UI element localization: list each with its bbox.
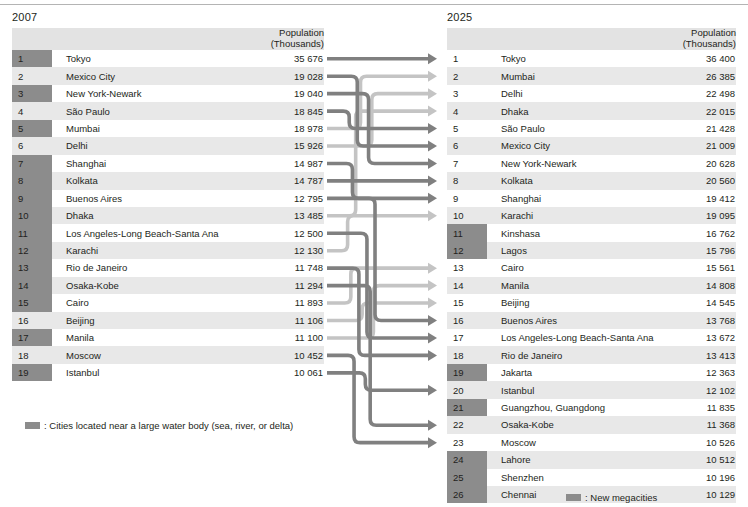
population-cell: 13 672 [706,332,736,343]
population-cell: 13 768 [706,315,736,326]
table-row[interactable]: 23Moscow10 526 [447,434,736,451]
flow-line-osaka-kobe [327,286,428,426]
population-cell: 15 926 [294,140,324,151]
table-row[interactable]: 18Moscow10 452 [12,346,324,363]
table-row[interactable]: 8Kolkata20 560 [447,172,736,189]
flow-line-delhi [327,94,428,146]
flow-arrowhead-icon [428,193,437,204]
flow-arrowhead-icon [428,350,437,361]
table-row[interactable]: 13Cairo15 561 [447,259,736,276]
city-name-cell: Mumbai [52,123,294,134]
flow-line-istanbul [327,373,428,390]
population-cell: 10 061 [294,367,324,378]
city-name-cell: Buenos Aires [52,193,294,204]
rank-cell: 12 [12,242,52,259]
city-name-cell: Manila [487,280,706,291]
population-cell: 12 795 [294,193,324,204]
rank-cell: 10 [12,207,52,224]
table-row[interactable]: 25Shenzhen10 196 [447,469,736,486]
city-name-cell: Delhi [487,88,706,99]
rank-cell: 11 [12,224,52,241]
rank-cell: 5 [447,120,487,137]
top-divider [0,4,748,5]
table-row[interactable]: 13Rio de Janeiro11 748 [12,259,324,276]
city-name-cell: Shanghai [487,193,706,204]
city-name-cell: Rio de Janeiro [487,350,706,361]
table-row[interactable]: 9Shanghai19 412 [447,190,736,207]
table-row[interactable]: 14Manila14 808 [447,277,736,294]
table-row[interactable]: 16Buenos Aires13 768 [447,312,736,329]
population-cell: 12 102 [706,385,736,396]
rank-cell: 2 [447,67,487,84]
table-row[interactable]: 1Tokyo35 676 [12,50,324,67]
table-row[interactable]: 12Lagos15 796 [447,242,736,259]
flow-line-rio-de-janeiro [327,268,428,355]
table-row[interactable]: 1Tokyo36 400 [447,50,736,67]
table-row[interactable]: 18Rio de Janeiro13 413 [447,346,736,363]
rank-cell: 13 [12,259,52,276]
table-row[interactable]: 11Los Angeles-Long Beach-Santa Ana12 500 [12,224,324,241]
rank-cell: 21 [447,399,487,416]
megacity-rank-diagram: 2007 2025 Population (Thousands) 1Tokyo3… [0,0,748,507]
table-row[interactable]: 15Cairo11 893 [12,294,324,311]
table-row[interactable]: 8Kolkata14 787 [12,172,324,189]
table-row[interactable]: 17Manila11 100 [12,329,324,346]
table-row[interactable]: 22Osaka-Kobe11 368 [447,416,736,433]
city-name-cell: Karachi [52,245,294,256]
city-name-cell: Moscow [52,350,294,361]
table-row[interactable]: 24Lahore10 512 [447,451,736,468]
rank-cell: 3 [12,85,52,102]
table-row[interactable]: 4Dhaka22 015 [447,102,736,119]
city-name-cell: Rio de Janeiro [52,262,295,273]
table-row[interactable]: 21Guangzhou, Guangdong11 835 [447,399,736,416]
table-row[interactable]: 7Shanghai14 987 [12,155,324,172]
legend-swatch-icon [566,494,581,501]
flow-arrowhead-icon [428,315,437,326]
table-row[interactable]: 14Osaka-Kobe11 294 [12,277,324,294]
population-cell: 19 028 [294,71,324,82]
city-name-cell: Los Angeles-Long Beach-Santa Ana [487,332,706,343]
table-row[interactable]: 19Jakarta12 363 [447,364,736,381]
city-name-cell: Beijing [487,297,706,308]
population-cell: 11 835 [707,402,736,413]
table-2025-header: Population (Thousands) [447,28,736,50]
population-cell: 13 485 [294,210,324,221]
rank-cell: 14 [12,277,52,294]
table-row[interactable]: 10Dhaka13 485 [12,207,324,224]
table-row[interactable]: 20Istanbul12 102 [447,381,736,398]
rank-cell: 18 [12,346,52,363]
city-name-cell: Dhaka [487,106,706,117]
table-row[interactable]: 12Karachi12 130 [12,242,324,259]
table-row[interactable]: 6Delhi15 926 [12,137,324,154]
table-row[interactable]: 15Beijing14 545 [447,294,736,311]
population-cell: 10 129 [706,489,736,500]
table-row[interactable]: 5São Paulo21 428 [447,120,736,137]
table-row[interactable]: 5Mumbai18 978 [12,120,324,137]
rank-cell: 4 [447,102,487,119]
table-row[interactable]: 6Mexico City21 009 [447,137,736,154]
rank-cell: 1 [12,50,52,67]
city-name-cell: Osaka-Kobe [52,280,295,291]
flow-arrowhead-icon [428,298,437,309]
table-row[interactable]: 3New York-Newark19 040 [12,85,324,102]
table-row[interactable]: 19Istanbul10 061 [12,364,324,381]
table-row[interactable]: 3Delhi22 498 [447,85,736,102]
table-row[interactable]: 9Buenos Aires12 795 [12,190,324,207]
city-name-cell: São Paulo [487,123,706,134]
rank-cell: 8 [447,172,487,189]
city-name-cell: Delhi [52,140,294,151]
population-cell: 19 095 [706,210,736,221]
table-row[interactable]: 7New York-Newark20 628 [447,155,736,172]
table-row[interactable]: 2Mexico City19 028 [12,67,324,84]
table-row[interactable]: 2Mumbai26 385 [447,67,736,84]
population-cell: 22 498 [706,88,736,99]
city-name-cell: Cairo [52,297,295,308]
table-row[interactable]: 4São Paulo18 845 [12,102,324,119]
table-row[interactable]: 10Karachi19 095 [447,207,736,224]
table-row[interactable]: 16Beijing11 106 [12,312,324,329]
population-cell: 15 796 [706,245,736,256]
table-row[interactable]: 11Kinshasa16 762 [447,224,736,241]
population-cell: 20 628 [706,158,736,169]
city-name-cell: Moscow [487,437,706,448]
table-row[interactable]: 17Los Angeles-Long Beach-Santa Ana13 672 [447,329,736,346]
